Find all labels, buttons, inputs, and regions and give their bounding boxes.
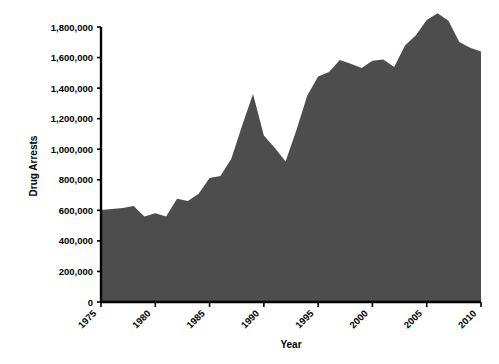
chart-canvas: 0200,000400,000600,000800,0001,000,0001,… — [0, 0, 499, 364]
drug-arrests-area-chart: 0200,000400,000600,000800,0001,000,0001,… — [0, 0, 499, 364]
y-tick-label: 1,400,000 — [51, 83, 93, 94]
y-tick-label: 200,000 — [59, 266, 93, 277]
y-tick-label: 1,800,000 — [51, 22, 93, 33]
y-tick-label: 600,000 — [59, 205, 93, 216]
y-tick-label: 1,000,000 — [51, 144, 93, 155]
y-tick-label: 1,600,000 — [51, 52, 93, 63]
y-tick-label: 400,000 — [59, 235, 93, 246]
y-axis-title: Drug Arrests — [28, 135, 39, 196]
x-axis-title: Year — [280, 339, 301, 350]
y-tick-label: 0 — [88, 297, 93, 308]
y-tick-label: 1,200,000 — [51, 113, 93, 124]
y-tick-label: 800,000 — [59, 174, 93, 185]
